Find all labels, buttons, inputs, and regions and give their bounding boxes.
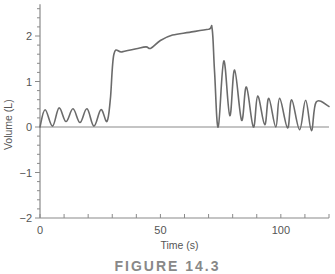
y-axis: −2−1012: [19, 4, 40, 224]
figure-caption: FIGURE 14.3: [0, 258, 335, 274]
y-tick-label: 1: [26, 76, 32, 88]
x-tick-label: 0: [37, 224, 43, 236]
y-tick-label: 0: [26, 121, 32, 133]
x-tick-label: 50: [154, 224, 166, 236]
y-tick-label: −2: [19, 212, 32, 224]
y-axis-title: Volume (L): [2, 99, 14, 150]
x-axis: 050100: [37, 214, 329, 236]
y-tick-label: −1: [19, 167, 32, 179]
volume-trace: [40, 26, 329, 131]
x-axis-title: Time (s): [160, 239, 198, 251]
y-tick-label: 2: [26, 30, 32, 42]
x-tick-label: 100: [272, 224, 290, 236]
